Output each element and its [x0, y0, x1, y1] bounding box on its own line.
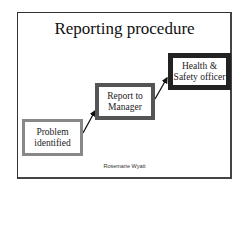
step-label: Safety officer: [174, 72, 226, 83]
step-report-to-manager: Report toManager: [95, 83, 155, 120]
author-name: Rosemarie Wyatt: [0, 163, 249, 169]
step-label: Problem: [34, 127, 70, 138]
step-health-safety-officer: Health &Safety officer: [168, 53, 231, 90]
step-label: Health &: [174, 61, 226, 72]
step-problem-identified: Problemidentified: [22, 119, 83, 156]
step-label: identified: [34, 138, 70, 149]
step-label: Manager: [107, 102, 143, 113]
arrow-icon: [83, 111, 95, 133]
step-label: Report to: [107, 91, 143, 102]
arrow-icon: [155, 78, 167, 99]
